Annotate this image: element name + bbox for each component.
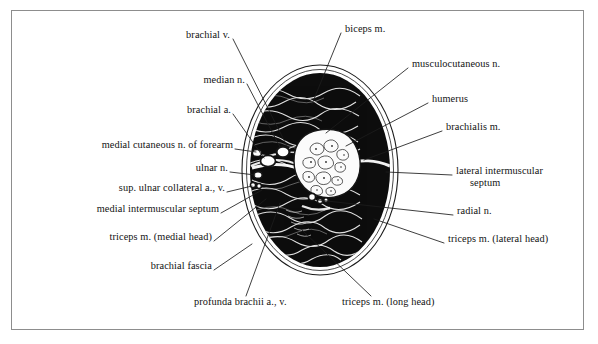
label-ulnar-n: ulnar n. (196, 162, 228, 174)
profunda-brachii-artery (317, 198, 322, 203)
label-triceps-m-long-head: triceps m. (long head) (342, 296, 435, 308)
sup-ulnar-collateral-artery (250, 182, 255, 187)
label-sup-ulnar-collateral-a-v: sup. ulnar collateral a., v. (119, 182, 225, 194)
humerus-bone (294, 129, 360, 198)
label-triceps-m-medial-head: triceps m. (medial head) (110, 231, 212, 243)
radial-nerve-section (308, 193, 315, 200)
label-brachial-a: brachial a. (187, 104, 231, 116)
label-musculocutaneous-n: musculocutaneous n. (412, 58, 500, 70)
label-brachialis-m: brachialis m. (446, 121, 500, 133)
brachial-vein-lumen (277, 147, 290, 158)
label-medial-cutaneous-n-of-forearm: medial cutaneous n. of forearm (102, 139, 233, 151)
label-lateral-intermuscular-septum: lateral intermuscular septum (456, 165, 543, 188)
leader-brachial-fascia (214, 244, 252, 270)
label-medial-intermuscular-septum: medial intermuscular septum (97, 203, 219, 215)
label-profunda-brachii-a-v: profunda brachii a., v. (194, 296, 287, 308)
leader-triceps-lateral-head (374, 219, 444, 243)
label-triceps-m-lateral-head: triceps m. (lateral head) (448, 233, 548, 245)
sup-ulnar-collateral-vein (257, 184, 262, 189)
label-line-1: lateral intermuscular (456, 165, 543, 176)
label-median-n: median n. (203, 74, 245, 86)
label-humerus: humerus (432, 93, 468, 105)
brachial-artery-lumen (261, 155, 276, 166)
anatomy-figure: brachial v. median n. brachial a. medial… (0, 0, 598, 344)
label-brachial-v: brachial v. (186, 29, 230, 41)
label-radial-n: radial n. (457, 205, 492, 217)
label-brachial-fascia: brachial fascia (151, 260, 212, 272)
label-line-2: septum (456, 177, 543, 189)
label-biceps-m: biceps m. (345, 23, 385, 35)
profunda-brachii-vein (324, 198, 328, 202)
